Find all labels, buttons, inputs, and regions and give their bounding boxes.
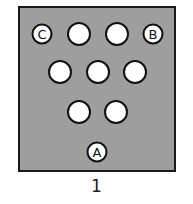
coin [123, 60, 147, 84]
coin [48, 60, 72, 84]
coin [86, 60, 110, 84]
coin [67, 22, 91, 46]
coin-c: C [32, 24, 53, 45]
coin-b: B [143, 24, 164, 45]
coin [67, 100, 91, 124]
figure-caption: 1 [0, 176, 193, 196]
coin [105, 22, 129, 46]
coin-a: A [87, 142, 108, 163]
coin [104, 100, 128, 124]
